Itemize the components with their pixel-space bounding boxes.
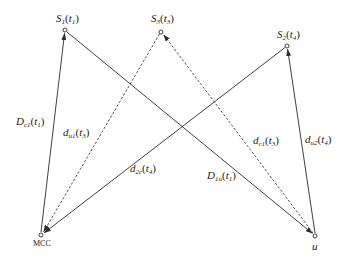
edge-u-to-s3 [164, 35, 314, 234]
paren: ) [152, 162, 156, 174]
node-u [313, 234, 317, 238]
edge-label-dc1: Dc1(t1) [16, 116, 44, 129]
label-main: D [16, 115, 24, 127]
label-sub: u2 [311, 139, 318, 147]
node-s1 [63, 28, 67, 32]
label-sub: u1 [69, 132, 76, 140]
paren: ) [275, 134, 279, 146]
edge-label-du1: du1(t3) [63, 127, 89, 140]
node-label-s2: S2(t4) [277, 29, 300, 42]
paren: ) [170, 12, 174, 24]
edge-s2-to-mcc [44, 48, 285, 234]
node-label-s3: S3(t3) [151, 13, 174, 26]
node-label-s1: S1(t1) [56, 13, 79, 26]
paren: ) [328, 133, 332, 145]
node-s2 [285, 44, 289, 48]
edge-label-d1u: D1u(t1) [207, 170, 236, 183]
edge-label-dc1-dashed: dc1(t3) [253, 135, 279, 148]
edge-label-d2c: d2c(t4) [130, 163, 156, 176]
node-label-mcc: MCC [33, 240, 51, 248]
edge-label-du2: du2(t4) [305, 134, 331, 147]
node-label-u: u [312, 241, 318, 252]
paren: ) [41, 115, 45, 127]
paren: ) [75, 12, 79, 24]
paren: ) [86, 126, 90, 138]
node-mcc [39, 233, 43, 237]
node-s3 [159, 30, 163, 34]
label-sub: c1 [24, 121, 31, 129]
label-sub: 1u [215, 175, 222, 183]
paren: ) [232, 169, 236, 181]
label-main: D [207, 169, 215, 181]
edge-s1-to-u [67, 32, 313, 234]
paren: ) [296, 28, 300, 40]
